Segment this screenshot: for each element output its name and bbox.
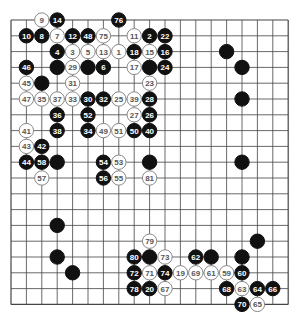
move-number: 65 xyxy=(253,300,262,309)
move-number: 23 xyxy=(145,79,154,88)
move-number: 33 xyxy=(68,95,77,104)
white-stone: 49 xyxy=(96,123,110,137)
black-stone: 2 xyxy=(142,29,156,43)
white-stone: 39 xyxy=(127,92,141,106)
black-stone: 64 xyxy=(250,281,264,295)
black-stone-icon xyxy=(142,155,156,169)
white-stone: 25 xyxy=(112,92,126,106)
white-stone: 45 xyxy=(19,76,33,90)
move-number: 25 xyxy=(114,95,123,104)
move-number: 43 xyxy=(22,142,31,151)
black-stone xyxy=(250,234,264,248)
white-stone: 5 xyxy=(81,44,95,58)
move-number: 2 xyxy=(147,32,152,41)
black-stone xyxy=(142,60,156,74)
white-stone: 69 xyxy=(189,266,203,280)
white-stone: 61 xyxy=(204,266,218,280)
move-number: 75 xyxy=(99,32,108,41)
move-number: 72 xyxy=(130,269,139,278)
move-number: 50 xyxy=(130,127,139,136)
move-number: 4 xyxy=(55,48,60,57)
move-number: 3 xyxy=(70,48,75,57)
black-stone: 16 xyxy=(158,44,172,58)
black-stone-icon xyxy=(219,44,233,58)
white-stone: 55 xyxy=(112,171,126,185)
black-stone: 72 xyxy=(127,266,141,280)
move-number: 6 xyxy=(101,63,106,72)
white-stone: 71 xyxy=(142,266,156,280)
move-number: 36 xyxy=(53,111,62,120)
move-number: 12 xyxy=(68,32,77,41)
move-number: 47 xyxy=(22,95,31,104)
black-stone: 18 xyxy=(127,44,141,58)
move-number: 73 xyxy=(161,253,170,262)
move-number: 17 xyxy=(130,63,139,72)
black-stone: 28 xyxy=(142,92,156,106)
black-stone: 80 xyxy=(127,250,141,264)
black-stone: 44 xyxy=(19,155,33,169)
white-stone: 9 xyxy=(35,13,49,27)
white-stone: 75 xyxy=(96,29,110,43)
move-number: 68 xyxy=(222,285,231,294)
black-stone xyxy=(142,250,156,264)
black-stone: 32 xyxy=(96,92,110,106)
move-number: 54 xyxy=(99,158,108,167)
move-number: 7 xyxy=(55,32,60,41)
black-stone: 52 xyxy=(81,108,95,122)
move-number: 15 xyxy=(145,48,154,57)
black-stone xyxy=(235,60,249,74)
black-stone-icon xyxy=(204,250,218,264)
black-stone-icon xyxy=(235,60,249,74)
move-number: 13 xyxy=(99,48,108,57)
black-stone: 38 xyxy=(50,123,64,137)
white-stone: 51 xyxy=(112,123,126,137)
black-stone: 58 xyxy=(35,155,49,169)
move-number: 51 xyxy=(114,127,123,136)
move-number: 26 xyxy=(145,111,154,120)
white-stone: 53 xyxy=(112,155,126,169)
move-number: 55 xyxy=(114,174,123,183)
black-stone-icon xyxy=(35,76,49,90)
move-number: 35 xyxy=(37,95,46,104)
move-number: 24 xyxy=(161,63,170,72)
black-stone xyxy=(235,92,249,106)
move-number: 60 xyxy=(238,269,247,278)
move-number: 19 xyxy=(176,269,185,278)
move-number: 56 xyxy=(99,174,108,183)
move-number: 62 xyxy=(191,253,200,262)
white-stone: 41 xyxy=(19,123,33,137)
white-stone: 7 xyxy=(50,29,64,43)
move-number: 42 xyxy=(37,142,46,151)
black-stone: 24 xyxy=(158,60,172,74)
move-number: 79 xyxy=(145,237,154,246)
black-stone xyxy=(50,218,64,232)
black-stone-icon xyxy=(235,92,249,106)
black-stone: 12 xyxy=(65,29,79,43)
move-number: 10 xyxy=(22,32,31,41)
black-stone xyxy=(65,266,79,280)
black-stone-icon xyxy=(50,218,64,232)
move-number: 76 xyxy=(114,16,123,25)
go-board: 9147610871248751122243513118151646296172… xyxy=(0,0,299,318)
black-stone-icon xyxy=(50,155,64,169)
white-stone: 47 xyxy=(19,92,33,106)
black-stone xyxy=(50,250,64,264)
white-stone: 1 xyxy=(112,44,126,58)
white-stone: 13 xyxy=(96,44,110,58)
black-stone: 66 xyxy=(266,281,280,295)
black-stone: 30 xyxy=(81,92,95,106)
black-stone: 60 xyxy=(235,266,249,280)
white-stone: 27 xyxy=(127,108,141,122)
move-number: 57 xyxy=(37,174,46,183)
move-number: 71 xyxy=(145,269,154,278)
move-number: 16 xyxy=(161,48,170,57)
white-stone: 19 xyxy=(173,266,187,280)
white-stone: 59 xyxy=(219,266,233,280)
black-stone: 14 xyxy=(50,13,64,27)
white-stone: 33 xyxy=(65,92,79,106)
black-stone-icon xyxy=(235,250,249,264)
white-stone: 79 xyxy=(142,234,156,248)
black-stone: 26 xyxy=(142,108,156,122)
move-number: 31 xyxy=(68,79,77,88)
move-number: 30 xyxy=(84,95,93,104)
